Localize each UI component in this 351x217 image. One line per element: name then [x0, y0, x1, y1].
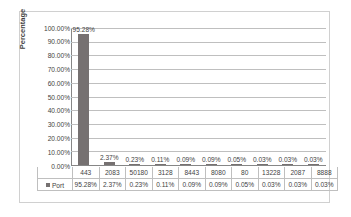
- bar-series: 95.28%2.37%0.23%0.11%0.09%0.09%0.05%0.03…: [71, 28, 326, 165]
- table-cell-category: 8443: [179, 167, 206, 179]
- bar-slot: 95.28%: [71, 28, 97, 165]
- y-axis-tick-label: 70.00%: [26, 66, 70, 73]
- table-cell-category: 8888: [311, 167, 338, 179]
- table-cell-category: 2087: [285, 167, 312, 179]
- bar-value-label: 0.05%: [227, 156, 246, 163]
- table-cell-category: 2083: [99, 167, 126, 179]
- bar-slot: 0.03%: [250, 28, 276, 165]
- table-cell-value: 2.37%: [99, 179, 126, 191]
- table-row-categories: 443208350180312884438080801322820878888: [38, 167, 338, 179]
- table-cell-value: 0.09%: [205, 179, 232, 191]
- bar-value-label: 95.28%: [73, 26, 95, 33]
- table-cell-category: 80: [232, 167, 259, 179]
- plot-area: 95.28%2.37%0.23%0.11%0.09%0.09%0.05%0.03…: [71, 28, 326, 166]
- y-axis-tick-label: 20.00%: [26, 135, 70, 142]
- bar-slot: 0.11%: [148, 28, 174, 165]
- table-cell-value: 0.09%: [179, 179, 206, 191]
- bar-slot: 0.03%: [301, 28, 327, 165]
- table-cell-category: 443: [73, 167, 100, 179]
- y-axis-tick-label: 100.00%: [26, 25, 70, 32]
- table-cell-value: 0.05%: [232, 179, 259, 191]
- bar-slot: 0.09%: [199, 28, 225, 165]
- bar-slot: 2.37%: [97, 28, 123, 165]
- bar[interactable]: [282, 164, 293, 165]
- bar-value-label: 2.37%: [100, 154, 119, 161]
- y-axis-tick-label: 90.00%: [26, 38, 70, 45]
- y-axis-tick-label: 50.00%: [26, 94, 70, 101]
- table-cell-value: 0.03%: [311, 179, 338, 191]
- bar-value-label: 0.09%: [176, 156, 195, 163]
- bar-value-label: 0.09%: [202, 156, 221, 163]
- table-cell-category: 13228: [258, 167, 285, 179]
- bar-value-label: 0.03%: [278, 156, 297, 163]
- table-cell-value: 95.28%: [73, 179, 100, 191]
- legend-blank-cell: [38, 167, 73, 179]
- bar-slot: 0.05%: [224, 28, 250, 165]
- legend-label: Port: [52, 181, 64, 188]
- bar[interactable]: [231, 164, 242, 165]
- bar[interactable]: [155, 164, 166, 165]
- bar[interactable]: [206, 164, 217, 165]
- x-axis-line: [71, 165, 326, 166]
- bar-value-label: 0.03%: [253, 156, 272, 163]
- y-axis-tick-label: 10.00%: [26, 149, 70, 156]
- bar[interactable]: [308, 164, 319, 165]
- y-axis-tick-label: 40.00%: [26, 107, 70, 114]
- table-cell-category: 50180: [126, 167, 153, 179]
- bar[interactable]: [129, 164, 140, 165]
- y-axis-tick-labels: 100.00%90.00%80.00%70.00%60.00%50.00%40.…: [26, 25, 70, 166]
- bar-slot: 0.09%: [173, 28, 199, 165]
- bar-value-label: 0.11%: [151, 156, 169, 163]
- bar[interactable]: [180, 164, 191, 165]
- table-cell-category: 3128: [152, 167, 179, 179]
- data-table: 443208350180312884438080801322820878888 …: [37, 167, 338, 191]
- legend-entry: Port: [38, 179, 73, 191]
- bar-value-label: 0.03%: [304, 156, 323, 163]
- table-cell-value: 0.11%: [152, 179, 179, 191]
- table-cell-value: 0.23%: [126, 179, 153, 191]
- chart-container: Percentage 100.00%90.00%80.00%70.00%60.0…: [19, 11, 330, 203]
- y-axis-tick-label: 80.00%: [26, 52, 70, 59]
- bar-slot: 0.03%: [275, 28, 301, 165]
- y-axis-tick-label: 30.00%: [26, 121, 70, 128]
- bar[interactable]: [104, 162, 115, 165]
- table-cell-value: 0.03%: [258, 179, 285, 191]
- legend-swatch-icon: [46, 183, 50, 187]
- y-axis-tick-label: 60.00%: [26, 80, 70, 87]
- bar[interactable]: [257, 164, 268, 165]
- table-row-values: Port 95.28%2.37%0.23%0.11%0.09%0.09%0.05…: [38, 179, 338, 191]
- bar-value-label: 0.23%: [125, 156, 144, 163]
- table-cell-category: 8080: [205, 167, 232, 179]
- bar[interactable]: [78, 34, 89, 165]
- bar-slot: 0.23%: [122, 28, 148, 165]
- table-cell-value: 0.03%: [285, 179, 312, 191]
